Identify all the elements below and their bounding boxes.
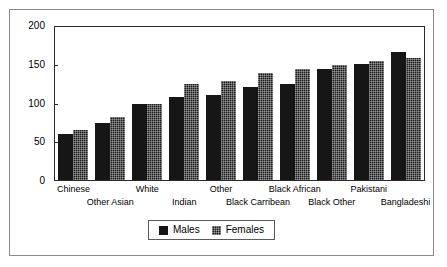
bar-females: [110, 117, 125, 180]
x-axis-label: Pakistani: [350, 185, 387, 194]
y-tick-label: 150: [28, 60, 45, 70]
bar-females: [184, 84, 199, 180]
bar-group: [317, 27, 347, 180]
bar-series-layer: [55, 27, 424, 180]
bar-group: [132, 27, 162, 180]
x-axis-label: Indian: [172, 198, 197, 207]
x-axis-label: Chinese: [57, 185, 90, 194]
legend-item: Females: [212, 225, 264, 235]
chart-legend: MalesFemales: [148, 220, 275, 240]
bar-females: [369, 61, 384, 180]
bar-males: [354, 64, 369, 180]
bar-group: [243, 27, 273, 180]
bar-females: [332, 65, 347, 180]
legend-item: Males: [159, 225, 200, 235]
bar-females: [147, 104, 162, 181]
bar-females: [258, 73, 273, 180]
x-axis-label: White: [136, 185, 159, 194]
bar-males: [58, 134, 73, 180]
legend-label: Females: [226, 225, 264, 235]
x-axis-category-labels: ChineseOther AsianWhiteIndianOtherBlack …: [55, 183, 424, 213]
bar-group: [58, 27, 88, 180]
bar-males: [391, 52, 406, 180]
bar-females: [406, 58, 421, 180]
y-tick-label: 0: [39, 176, 45, 186]
legend-label: Males: [173, 225, 200, 235]
y-tick-label: 100: [28, 99, 45, 109]
legend-swatch-males-icon: [159, 226, 168, 235]
bar-males: [206, 95, 221, 180]
y-tick-label: 200: [28, 21, 45, 31]
y-tick-mark: [54, 104, 58, 105]
x-axis-label: Bangladeshi: [381, 198, 431, 207]
bar-males: [95, 123, 110, 180]
y-axis: 050100150200: [10, 26, 51, 181]
x-axis-label: Other Asian: [87, 198, 134, 207]
bar-group: [169, 27, 199, 180]
y-tick-mark: [54, 65, 58, 66]
legend-swatch-females-icon: [212, 226, 221, 235]
bar-group: [280, 27, 310, 180]
bar-females: [221, 81, 236, 180]
x-axis-label: Black Other: [308, 198, 355, 207]
bar-males: [317, 69, 332, 180]
bar-males: [169, 97, 184, 180]
x-axis-label: Other: [210, 185, 233, 194]
chart-figure: 050100150200 ChineseOther AsianWhiteIndi…: [9, 9, 434, 256]
bar-females: [73, 130, 88, 180]
bar-females: [295, 69, 310, 180]
bar-group: [206, 27, 236, 180]
y-tick-mark: [54, 142, 58, 143]
x-axis-label: Black Carribean: [226, 198, 290, 207]
bar-group: [391, 27, 421, 180]
bar-males: [132, 104, 147, 181]
bar-group: [95, 27, 125, 180]
bar-males: [243, 87, 258, 180]
x-axis-label: Black African: [269, 185, 321, 194]
y-tick-mark: [54, 26, 58, 27]
bar-group: [354, 27, 384, 180]
y-tick-label: 50: [34, 137, 45, 147]
bar-males: [280, 84, 295, 180]
